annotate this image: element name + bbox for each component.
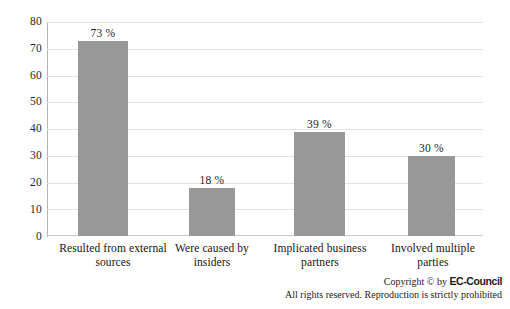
y-tick-label: 50 xyxy=(2,96,42,107)
copyright-line: Copyright © by EC-Council xyxy=(285,275,502,288)
y-tick-label: 40 xyxy=(2,123,42,134)
bar[interactable] xyxy=(294,132,345,236)
category-label-line: Implicated business xyxy=(250,241,390,255)
y-tick-label: 80 xyxy=(2,16,42,27)
category-label-line: partners xyxy=(250,255,390,269)
y-tick-label: 0 xyxy=(2,231,42,242)
bar-group: 73 % xyxy=(78,22,128,236)
y-tick-label: 60 xyxy=(2,70,42,81)
y-tick-label: 30 xyxy=(2,150,42,161)
bar-value-label: 39 % xyxy=(307,118,332,130)
rights-reserved-line: All rights reserved. Reproduction is str… xyxy=(285,288,502,301)
plot-area: 73 % 18 % 39 % 30 % xyxy=(47,22,483,236)
bar-group: 39 % xyxy=(294,22,345,236)
bar[interactable] xyxy=(189,188,235,236)
y-tick-label: 70 xyxy=(2,43,42,54)
footer: Copyright © by EC-Council All rights res… xyxy=(285,275,502,301)
bar-value-label: 18 % xyxy=(200,174,225,186)
y-tick-label: 10 xyxy=(2,204,42,215)
y-axis: 80 70 60 50 40 30 20 10 0 xyxy=(0,0,42,309)
y-tick-label: 20 xyxy=(2,177,42,188)
bar-group: 18 % xyxy=(189,22,235,236)
bar[interactable] xyxy=(408,156,455,236)
category-label-involved-multiple-parties: Involved multiple parties xyxy=(373,241,493,269)
category-label-implicated-business-partners: Implicated business partners xyxy=(250,241,390,269)
bar-value-label: 30 % xyxy=(419,142,444,154)
bar-group: 30 % xyxy=(408,22,455,236)
copyright-text: Copyright © by xyxy=(384,276,450,287)
bar[interactable] xyxy=(78,41,128,236)
bar-value-label: 73 % xyxy=(91,27,116,39)
category-label-line: parties xyxy=(373,255,493,269)
ec-council-brand: EC-Council xyxy=(449,275,502,287)
category-label-line: Involved multiple xyxy=(373,241,493,255)
bar-chart-figure: 80 70 60 50 40 30 20 10 0 73 % 18 % 39 % xyxy=(0,0,510,309)
